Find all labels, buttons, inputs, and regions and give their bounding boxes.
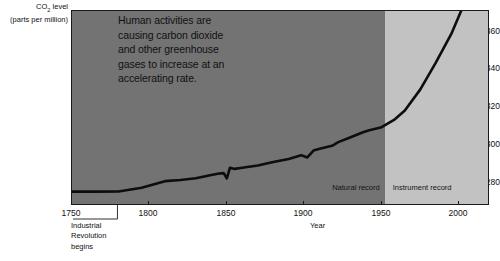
x-tick-mark-1900 [303, 201, 304, 205]
y-axis-title-line1: CO2 level [0, 2, 68, 15]
x-tick-mark-1800 [148, 201, 149, 205]
callout-line-3: begins [71, 242, 106, 252]
callout-line-2: Revolution [71, 231, 106, 241]
x-tick-label-1850: 1850 [217, 208, 236, 218]
annotation-line-5: accelerating rate. [118, 71, 298, 86]
y-axis-title: CO2 level (parts per million) [0, 2, 68, 25]
industrial-revolution-callout: Industrial Revolution begins [71, 221, 106, 252]
natural-record-label: Natural record [332, 183, 386, 192]
co2-chart-figure: CO2 level (parts per million) 360 340 32… [0, 0, 500, 261]
annotation-line-4: gases to increase at an [118, 57, 298, 72]
x-tick-label-1900: 1900 [294, 208, 313, 218]
annotation-line-3: and other greenhouse [118, 42, 298, 57]
x-tick-label-1800: 1800 [139, 208, 158, 218]
instrument-record-label: Instrument record [393, 183, 452, 192]
chart-annotation: Human activities are causing carbon diox… [118, 13, 298, 86]
x-tick-label-2000: 2000 [449, 208, 468, 218]
annotation-line-2: causing carbon dioxide [118, 28, 298, 43]
y-axis-title-rest: level [50, 2, 68, 11]
x-tick-mark-1950 [381, 201, 382, 205]
callout-line-1: Industrial [71, 221, 106, 231]
x-tick-mark-2000 [458, 201, 459, 205]
x-tick-label-1750: 1750 [62, 208, 81, 218]
x-tick-mark-1850 [226, 201, 227, 205]
annotation-line-1: Human activities are [118, 13, 298, 28]
y-axis-title-units: (parts per million) [0, 15, 68, 25]
x-tick-label-1950: 1950 [372, 208, 391, 218]
y-axis-title-main: CO [36, 2, 47, 11]
x-axis-title: Year [310, 221, 325, 230]
